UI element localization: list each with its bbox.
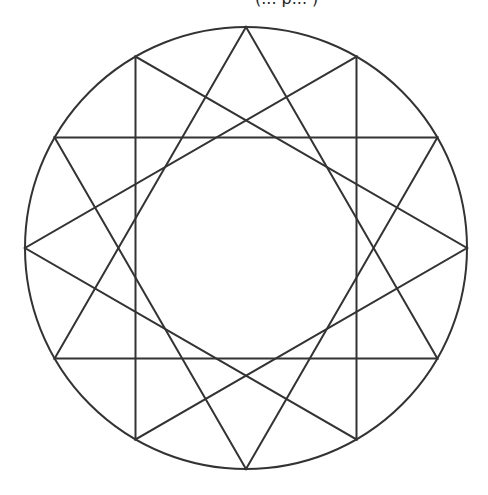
outer-circle: [25, 27, 467, 469]
dodecagram-diagram: [0, 0, 488, 495]
triangle-2: [25, 57, 357, 440]
triangles-group: [25, 27, 467, 469]
triangle-1: [55, 27, 438, 359]
triangle-3: [136, 57, 468, 440]
triangle-4: [55, 138, 438, 470]
